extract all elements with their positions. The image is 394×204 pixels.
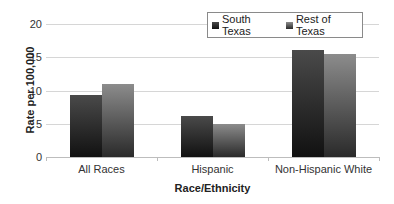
x-axis-title: Race/Ethnicity <box>46 182 379 194</box>
bar-rest-of-texas <box>324 54 356 157</box>
bar-south-texas <box>70 95 102 157</box>
bar-south-texas <box>292 50 324 157</box>
legend: South TexasRest of Texas <box>207 12 363 38</box>
legend-swatch-icon <box>286 22 293 29</box>
legend-swatch-icon <box>212 22 219 29</box>
y-tick-label: 20 <box>18 18 42 30</box>
bar-rest-of-texas <box>213 124 245 157</box>
y-axis-title: Rate per 100,000 <box>24 30 36 150</box>
x-tick <box>268 157 269 161</box>
x-tick <box>379 157 380 161</box>
x-tick-label: Hispanic <box>157 163 268 175</box>
x-tick-label: Non-Hispanic White <box>268 163 379 175</box>
x-axis-line <box>46 157 379 158</box>
bar-rest-of-texas <box>102 84 134 157</box>
legend-label: Rest of Texas <box>296 13 362 37</box>
bar-south-texas <box>181 116 213 157</box>
x-tick <box>46 157 47 161</box>
x-tick-label: All Races <box>46 163 157 175</box>
legend-item: South Texas <box>212 13 282 37</box>
legend-label: South Texas <box>222 13 282 37</box>
legend-item: Rest of Texas <box>286 13 362 37</box>
x-tick <box>157 157 158 161</box>
y-tick-label: 0 <box>18 151 42 163</box>
plot-area <box>46 24 379 157</box>
